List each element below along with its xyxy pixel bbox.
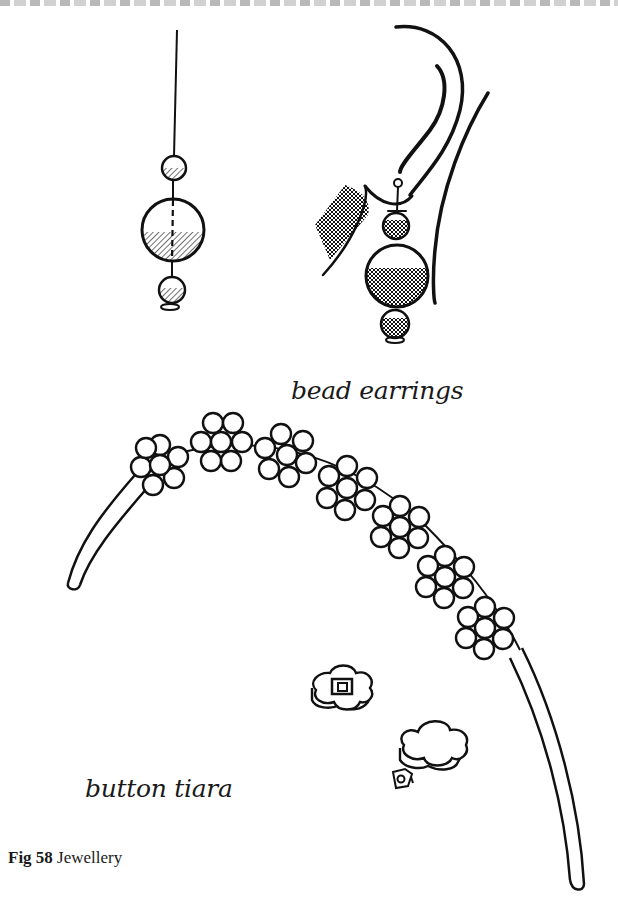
loose-flower-button-with-shank [312,666,372,710]
figure-number: Fig 58 [8,848,53,867]
flower-button [456,597,514,659]
earring-worn-on-ear [315,27,488,343]
loose-flower-button [400,721,467,769]
tiara-headband [68,445,584,890]
figure-title: Jewellery [57,848,122,867]
single-bead-earring [140,30,206,310]
flower-button [191,413,252,471]
bead-earrings-caption: bead earrings [291,376,463,405]
flower-button [255,424,316,487]
figure-caption: Fig 58 Jewellery [8,848,122,868]
button-shank [393,769,413,788]
jewellery-illustration [0,0,618,907]
flower-button [131,435,188,495]
flower-button [416,546,474,608]
flower-button [371,496,429,558]
flower-button [317,456,377,520]
button-tiara-caption: button tiara [85,774,233,803]
